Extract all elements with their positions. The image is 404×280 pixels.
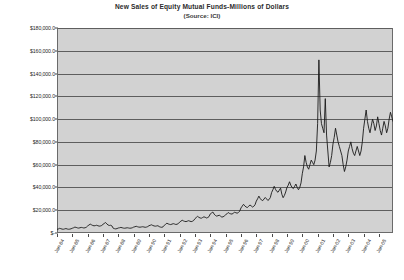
x-axis-tick-label: Jan-96 [237, 238, 250, 254]
y-axis-tick-label: $80,000.0 [33, 139, 55, 145]
x-axis-tick [287, 234, 288, 237]
x-axis-tick-label: Jan-97 [252, 238, 265, 254]
x-axis-tick [180, 234, 181, 237]
y-axis-tick-label: $180,000.0 [30, 25, 55, 31]
y-axis: $180,000.0$160,000.0$140,000.0$120,000.0… [0, 28, 55, 233]
y-axis-tick-label: $140,000.0 [30, 71, 55, 77]
x-axis-tick-label: Jan-87 [99, 238, 112, 254]
chart-subtitle: (Source: ICI) [0, 11, 404, 20]
x-axis-tick [72, 234, 73, 237]
x-axis-tick [210, 234, 211, 237]
data-series-line [57, 28, 393, 233]
x-axis-tick-label: Jan-05 [375, 238, 388, 254]
x-axis-tick [164, 234, 165, 237]
x-axis-tick [103, 234, 104, 237]
series-polyline [57, 60, 393, 229]
x-axis-tick-label: Jan-98 [267, 238, 280, 254]
x-axis-tick-label: Jan-94 [206, 238, 219, 254]
x-axis-tick-label: Jan-01 [313, 238, 326, 254]
y-axis-tick-label: $40,000.0 [33, 184, 55, 190]
chart-container: New Sales of Equity Mutual Funds-Million… [0, 0, 404, 280]
x-axis-tick-label: Jan-00 [298, 238, 311, 254]
x-axis-tick-label: Jan-93 [191, 238, 204, 254]
y-axis-tick-label: $60,000.0 [33, 162, 55, 168]
x-axis-tick [379, 234, 380, 237]
x-axis-tick [318, 234, 319, 237]
x-axis-tick-label: Jan-95 [221, 238, 234, 254]
x-axis-tick [364, 234, 365, 237]
x-axis-tick [333, 234, 334, 237]
x-axis-tick [241, 234, 242, 237]
x-axis-tick-label: Jan-90 [145, 238, 158, 254]
x-axis-tick [256, 234, 257, 237]
x-axis-tick-label: Jan-88 [114, 238, 127, 254]
y-axis-tick-label: $20,000.0 [33, 207, 55, 213]
x-axis-tick [348, 234, 349, 237]
chart-title: New Sales of Equity Mutual Funds-Million… [0, 2, 404, 11]
x-axis-tick-label: Jan-84 [53, 238, 66, 254]
x-axis-tick-label: Jan-89 [129, 238, 142, 254]
x-axis-tick-label: Jan-85 [68, 238, 81, 254]
x-axis-tick [88, 234, 89, 237]
y-axis-tick-label: $120,000.0 [30, 93, 55, 99]
x-axis-tick-label: Jan-02 [329, 238, 342, 254]
x-axis-tick [149, 234, 150, 237]
y-axis-tick-label: $100,000.0 [30, 116, 55, 122]
x-axis-tick [302, 234, 303, 237]
x-axis-tick-label: Jan-03 [344, 238, 357, 254]
x-axis-tick [118, 234, 119, 237]
x-axis-tick [226, 234, 227, 237]
x-axis: Jan-84Jan-85Jan-86Jan-87Jan-88Jan-89Jan-… [57, 234, 393, 280]
y-axis-tick-label: $160,000.0 [30, 48, 55, 54]
x-axis-tick [57, 234, 58, 237]
x-axis-tick-label: Jan-91 [160, 238, 173, 254]
x-axis-tick-label: Jan-04 [359, 238, 372, 254]
x-axis-tick-label: Jan-92 [175, 238, 188, 254]
x-axis-tick [272, 234, 273, 237]
chart-title-block: New Sales of Equity Mutual Funds-Million… [0, 2, 404, 20]
x-axis-tick-label: Jan-86 [83, 238, 96, 254]
x-axis-tick-label: Jan-99 [283, 238, 296, 254]
x-axis-tick [195, 234, 196, 237]
x-axis-tick [134, 234, 135, 237]
